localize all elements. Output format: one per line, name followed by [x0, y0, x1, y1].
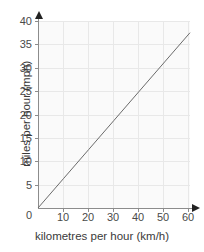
y-tick-mark: [35, 68, 39, 69]
y-tick-mark: [35, 21, 39, 22]
y-tick-mark: [35, 44, 39, 45]
y-tick-mark: [35, 138, 39, 139]
gridline-horizontal: [38, 185, 190, 186]
y-axis-title: miles per hour (mph): [21, 24, 33, 204]
gridline-horizontal: [38, 115, 190, 116]
x-tick-label: 40: [126, 212, 150, 223]
y-tick-mark: [35, 161, 39, 162]
x-tick-label: 20: [76, 212, 100, 223]
y-axis-line: [38, 18, 39, 208]
x-tick-label: 60: [176, 212, 200, 223]
x-tick-label: 50: [151, 212, 175, 223]
gridline-horizontal: [38, 91, 190, 92]
y-axis-arrow-icon: [35, 11, 43, 19]
y-tick-mark: [35, 185, 39, 186]
x-axis-line: [38, 208, 193, 209]
x-tick-label: 30: [101, 212, 125, 223]
conversion-line-chart: 40 35 30 25 20 15 10 5 0 10 20 30 40 50 …: [0, 0, 204, 252]
plot-area: [38, 21, 190, 208]
gridline-horizontal: [38, 44, 190, 45]
x-axis-title: kilometres per hour (km/h): [0, 231, 204, 243]
gridline-horizontal: [38, 68, 190, 69]
x-tick-label: 10: [51, 212, 75, 223]
y-tick-mark: [35, 115, 39, 116]
y-tick-mark: [35, 91, 39, 92]
gridline-horizontal: [38, 161, 190, 162]
y-tick-label: 0: [10, 210, 32, 221]
gridline-horizontal: [38, 138, 190, 139]
gridline-horizontal: [38, 21, 190, 22]
